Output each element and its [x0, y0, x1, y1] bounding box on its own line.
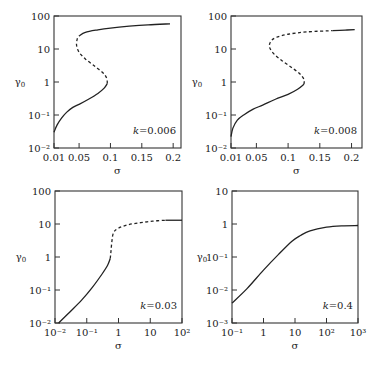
- x-tick-label: 1: [115, 327, 121, 338]
- y-tick-label: 10⁻¹: [28, 110, 50, 121]
- y-tick-label: 10: [214, 44, 227, 55]
- x-tick-label: 0.01: [43, 152, 65, 163]
- x-tick-label: 10³: [350, 327, 367, 338]
- x-tick-label: 10²: [174, 327, 191, 338]
- figure: 0.010.050.10.150.210010110⁻¹10⁻²σγ0k=0.0…: [0, 0, 376, 365]
- y-tick-label: 100: [31, 11, 50, 22]
- y-tick-label: 10⁻²: [206, 285, 228, 296]
- y-axis-label: γ0: [16, 251, 26, 264]
- y-tick-label: 100: [208, 11, 227, 22]
- x-tick-label: 0.1: [280, 152, 296, 163]
- y-tick-label: 10⁻²: [29, 318, 51, 329]
- y-tick-label: 10⁻²: [205, 143, 227, 154]
- curve-stable: [232, 226, 358, 304]
- x-tick-label: 0.01: [220, 152, 242, 163]
- y-tick-label: 10⁻¹: [205, 110, 227, 121]
- x-tick-label: 10²: [318, 327, 335, 338]
- y-tick-label: 1: [221, 77, 227, 88]
- y-tick-label: 10⁻³: [206, 318, 228, 329]
- x-tick-label: 0.2: [344, 152, 360, 163]
- curve-unstable: [269, 31, 332, 85]
- y-tick-label: 10⁻²: [28, 143, 50, 154]
- y-tick-label: 10⁻¹: [29, 285, 51, 296]
- curve-unstable: [110, 220, 165, 258]
- x-axis-label: σ: [293, 165, 300, 176]
- y-tick-label: 10: [37, 44, 50, 55]
- x-tick-label: 10: [289, 327, 302, 338]
- x-axis-label: σ: [292, 340, 299, 351]
- x-axis-label: σ: [115, 340, 122, 351]
- k-annotation: k=0.006: [133, 125, 176, 136]
- panel-k-0.006: 0.010.050.10.150.210010110⁻¹10⁻²σγ0k=0.0…: [15, 11, 181, 177]
- y-tick-label: 10: [215, 186, 228, 197]
- x-tick-label: 10⁻¹: [76, 327, 98, 338]
- y-tick-label: 1: [222, 219, 228, 230]
- curve-stable-lower: [54, 84, 107, 133]
- panel-k-0.4: 10⁻¹11010²10³10110⁻¹10⁻²10⁻³σγ0k=0.4: [197, 186, 367, 352]
- x-tick-label: 10: [144, 327, 157, 338]
- y-axis-label: γ0: [192, 76, 202, 89]
- y-tick-label: 1: [45, 252, 51, 263]
- x-tick-label: 0.05: [245, 152, 267, 163]
- panel-k-0.008: 0.010.050.10.150.210010110⁻¹10⁻²σγ0k=0.0…: [192, 11, 362, 177]
- x-tick-label: 0.1: [102, 152, 118, 163]
- x-tick-label: 1: [260, 327, 266, 338]
- curve-stable-upper: [79, 24, 170, 36]
- curve-stable-upper: [333, 30, 355, 31]
- x-tick-label: 0.05: [68, 152, 90, 163]
- y-tick-label: 1: [44, 77, 50, 88]
- k-annotation: k=0.008: [314, 125, 357, 136]
- x-axis-label: σ: [114, 165, 121, 176]
- k-annotation: k=0.03: [140, 300, 177, 311]
- x-tick-label: 0.15: [309, 152, 331, 163]
- y-tick-label: 10: [38, 219, 51, 230]
- curve-stable-lower: [59, 259, 111, 323]
- x-tick-label: 10⁻²: [44, 327, 66, 338]
- x-tick-label: 0.2: [165, 152, 181, 163]
- y-tick-label: 10⁻¹: [206, 252, 228, 263]
- x-tick-label: 10⁻¹: [221, 327, 243, 338]
- panel-k-0.03: 10⁻²10⁻¹11010²10010110⁻¹10⁻²σγ0k=0.03: [16, 186, 191, 352]
- x-tick-label: 0.15: [131, 152, 153, 163]
- curve-stable-lower: [231, 84, 304, 136]
- curve-unstable: [76, 36, 107, 84]
- y-tick-label: 100: [32, 186, 51, 197]
- y-axis-label: γ0: [15, 76, 25, 89]
- k-annotation: k=0.4: [323, 300, 353, 311]
